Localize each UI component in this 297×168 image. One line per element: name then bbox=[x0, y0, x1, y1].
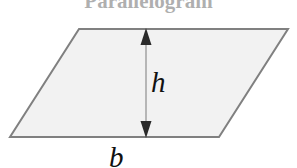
parallelogram-shape bbox=[10, 29, 288, 137]
parallelogram-figure bbox=[0, 0, 297, 168]
height-label: h bbox=[151, 68, 166, 97]
diagram-canvas: Parallelogram h b bbox=[0, 0, 297, 168]
base-label: b bbox=[109, 143, 124, 168]
